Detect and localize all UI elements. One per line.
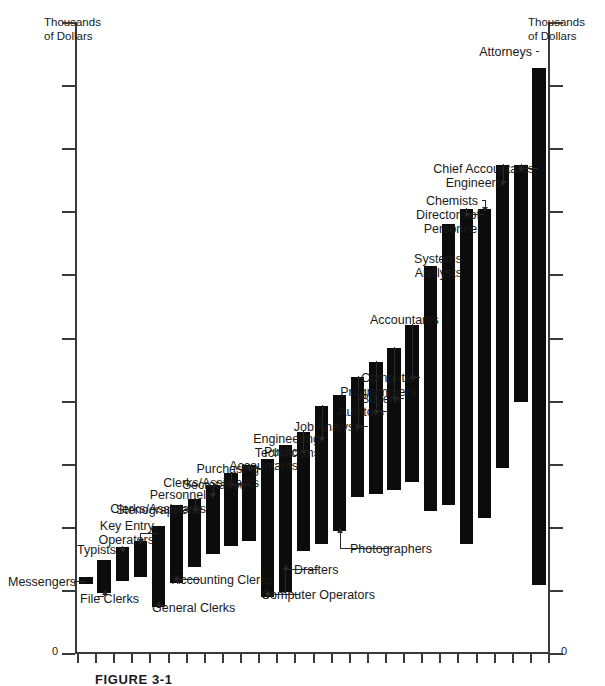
bar-file-clerks <box>97 560 110 593</box>
bar-label-engineers: Engineers <box>422 176 502 190</box>
bar-label-chief-accountants: Chief Accountants <box>412 162 534 176</box>
bar-label-systems-analysts: Systems Analysts <box>378 252 462 280</box>
figure-page: Thousands of Dollars Thousands of Dollar… <box>0 0 605 686</box>
leader-line <box>412 324 413 377</box>
bar-label-general-clerks: General Clerks <box>152 601 235 615</box>
bar-label-auditors: Auditors <box>324 405 384 419</box>
bar-label-drafters: Drafters <box>294 563 338 577</box>
bar-label-directors-of-personnel: Directors of Personnel <box>362 208 480 236</box>
bar-label-file-clerks: File Clerks <box>80 592 139 606</box>
bar-label-attorneys: Attorneys <box>470 45 532 59</box>
leader-arrow <box>210 493 216 498</box>
figure-caption: FIGURE 3-1 <box>95 672 173 686</box>
bar-attorneys <box>532 68 545 585</box>
bar-series <box>0 0 605 686</box>
leader-line <box>340 532 341 548</box>
leader-line <box>536 51 539 52</box>
bar-label-job-analysts: Job Analysts <box>288 420 364 434</box>
bar-accountants <box>424 266 437 510</box>
bar-label-messengers: Messengers <box>8 575 74 589</box>
bar-label-photographers: Photographers <box>350 542 432 556</box>
bar-label-chemists: Chemists <box>412 194 478 208</box>
bar-chemists <box>478 209 491 518</box>
bar-label-engineering-technicians: Engineering Technicians <box>196 432 320 460</box>
bar-label-computer-operators: Computer Operators <box>261 588 375 602</box>
bar-label-key-entry-operators: Key Entry Operators <box>78 519 154 547</box>
leader-arrow <box>120 548 126 553</box>
bar-label-accountants: Accountants <box>370 313 432 327</box>
bar-label-personnel-clerks: Personnel Clerks/Assistants <box>76 488 206 516</box>
bar-label-accounting-clerks: Accounting Clerks <box>172 573 273 587</box>
leader-arrow <box>482 207 488 212</box>
bar-chief-accountants <box>514 165 527 401</box>
bar-engineers <box>496 165 509 468</box>
leader-arrow <box>283 565 289 570</box>
leader-arrow <box>337 528 343 533</box>
bar-label-computer-programmers: Computer Programmers <box>298 371 416 399</box>
